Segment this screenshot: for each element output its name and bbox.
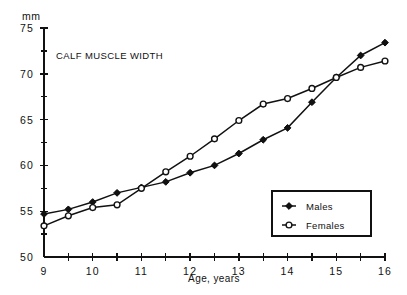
x-axis-tick-label: 9 — [40, 265, 47, 277]
y-axis-tick-label: 60 — [20, 159, 34, 171]
data-point-males — [188, 171, 192, 175]
data-point-females — [333, 75, 339, 81]
y-axis-tick-label: 65 — [20, 114, 34, 126]
data-point-males — [237, 151, 241, 155]
data-point-females — [358, 64, 364, 70]
x-axis-title: Age, years — [188, 273, 240, 284]
data-point-males — [261, 138, 265, 142]
data-point-males — [212, 163, 216, 167]
y-axis-tick-label: 75 — [20, 22, 34, 34]
data-point-females — [90, 205, 96, 211]
chart-plot-area: 505560657075 910111213141516 mm CALF MUS… — [0, 0, 407, 295]
legend-label: Males — [306, 201, 333, 212]
data-point-males — [310, 100, 314, 104]
data-point-females — [163, 169, 169, 175]
data-point-males — [91, 200, 95, 204]
data-point-females — [41, 223, 47, 229]
data-point-females — [65, 213, 71, 219]
data-point-males — [285, 126, 289, 130]
data-point-females — [309, 86, 315, 92]
data-point-females — [285, 96, 291, 102]
x-axis-tick-label: 11 — [135, 265, 148, 277]
data-point-females — [212, 136, 218, 142]
data-point-males — [359, 53, 363, 57]
data-point-females — [382, 58, 388, 64]
legend-marker-males — [287, 204, 291, 208]
data-point-males — [66, 207, 70, 211]
data-point-males — [42, 212, 46, 216]
x-axis-tick-label: 14 — [281, 265, 295, 277]
y-axis-tick-label: 50 — [20, 251, 34, 263]
data-point-females — [236, 118, 242, 124]
x-axis-tick-label: 16 — [378, 265, 392, 277]
x-axis-tick-label: 15 — [329, 265, 343, 277]
chart-title: CALF MUSCLE WIDTH — [56, 50, 163, 61]
data-point-males — [383, 41, 387, 45]
y-axis-unit-label: mm — [22, 10, 41, 22]
y-axis-tick-labels: 505560657075 — [20, 22, 34, 263]
legend: MalesFemales — [272, 191, 371, 236]
y-axis-tick-label: 55 — [20, 205, 34, 217]
legend-label: Females — [306, 220, 345, 231]
data-point-males — [115, 191, 119, 195]
data-point-females — [187, 153, 193, 159]
x-axis-tick-label: 10 — [86, 265, 100, 277]
data-point-females — [260, 101, 266, 107]
legend-marker-females — [286, 222, 292, 228]
series-line-males — [44, 43, 385, 214]
data-point-females — [139, 185, 145, 191]
y-axis-tick-label: 70 — [20, 68, 34, 80]
data-point-males — [164, 180, 168, 184]
data-point-females — [114, 202, 120, 208]
calf-muscle-width-chart: 505560657075 910111213141516 mm CALF MUS… — [0, 0, 407, 295]
